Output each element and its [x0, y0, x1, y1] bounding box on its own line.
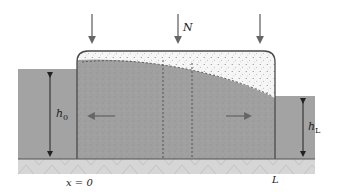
origin-label: x = 0	[66, 177, 93, 188]
load-label: N	[182, 21, 193, 34]
hL-label: hL	[308, 120, 321, 135]
length-label: L	[271, 174, 279, 185]
consolidation-diagram: N h0 hL x = 0 L	[0, 0, 341, 192]
load-arrows	[92, 14, 260, 40]
soil-sample	[77, 51, 275, 159]
base-foundation	[18, 159, 315, 174]
